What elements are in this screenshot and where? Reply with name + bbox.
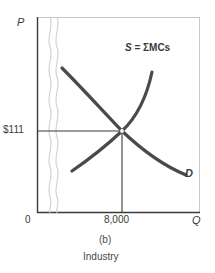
origin-label: 0: [25, 214, 31, 225]
demand-curve-label: D: [185, 167, 193, 179]
price-tick-label: $111: [3, 124, 24, 135]
supply-curve-label-symbol: S: [125, 42, 132, 53]
panel-caption: Industry: [83, 251, 119, 262]
y-axis-label: P: [17, 16, 24, 28]
x-axis-label: Q: [192, 214, 201, 226]
supply-curve-label-rest: = ΣMCs: [132, 42, 171, 53]
equilibrium-point: [120, 129, 124, 133]
plot-frame: [38, 18, 200, 213]
demand-curve: [62, 68, 186, 175]
panel-letter: (b): [99, 234, 111, 245]
supply-demand-chart: [0, 0, 215, 273]
y-axis-break-icon: [49, 17, 58, 213]
supply-curve-label: S = ΣMCs: [125, 42, 170, 53]
quantity-tick-label: 8,000: [104, 214, 129, 225]
